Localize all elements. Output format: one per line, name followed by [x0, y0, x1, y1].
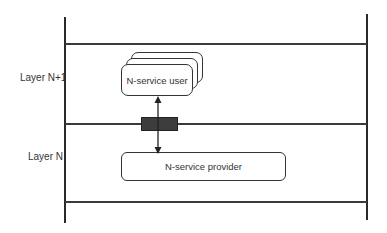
bidirectional-arrow-icon: [150, 95, 166, 155]
right-boundary-line: [366, 14, 368, 220]
left-boundary-line: [64, 17, 66, 223]
top-layer-line: [65, 43, 367, 45]
layer-n-plus-1-label: Layer N+1: [20, 72, 66, 83]
n-service-provider-box: N-service provider: [121, 152, 286, 181]
layer-n-label: Layer N: [28, 151, 63, 162]
n-service-provider-label: N-service provider: [165, 161, 242, 172]
layer-boundary-line: [65, 123, 367, 125]
n-service-user-label: N-service user: [126, 75, 187, 86]
bottom-layer-line: [65, 201, 367, 203]
n-service-user-box: N-service user: [121, 64, 193, 96]
